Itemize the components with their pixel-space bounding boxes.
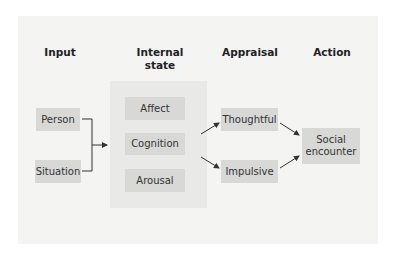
- connectors: [0, 0, 396, 259]
- arrow-connectors: [201, 123, 299, 168]
- bracket-connector: [82, 119, 107, 171]
